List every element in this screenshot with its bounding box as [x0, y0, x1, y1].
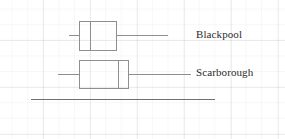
series-label-blackpool: Blackpool — [196, 29, 242, 40]
box-scarborough — [80, 61, 129, 89]
boxplot-series-blackpool — [69, 22, 168, 51]
boxplot-chart-screenshot: Blackpool Scarborough — [0, 0, 285, 139]
box-blackpool — [80, 22, 117, 51]
boxplot-series-scarborough — [58, 61, 191, 89]
series-label-scarborough: Scarborough — [196, 67, 253, 78]
